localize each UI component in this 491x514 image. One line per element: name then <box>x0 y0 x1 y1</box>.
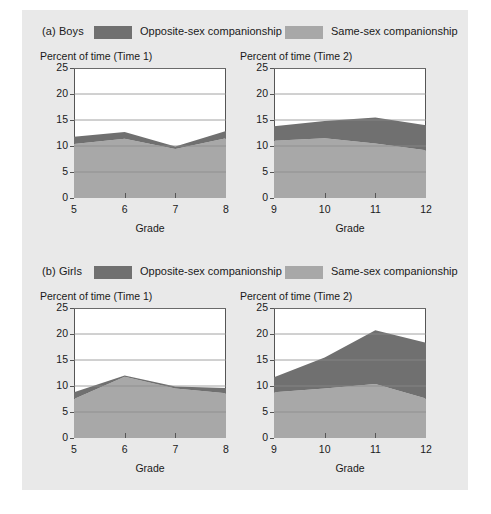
chart-svg <box>274 68 426 198</box>
y-tick-mark <box>70 308 74 309</box>
x-tick-label: 8 <box>223 204 229 215</box>
x-tick-label: 8 <box>223 444 229 455</box>
x-tick-label: 12 <box>420 204 432 215</box>
legend-girls: (b) Girls Opposite-sex companionship Sam… <box>22 264 468 282</box>
y-tick-mark <box>270 120 274 121</box>
y-tick-mark <box>70 146 74 147</box>
area-series-same-sex <box>74 138 226 198</box>
y-tick-label: 15 <box>40 114 68 125</box>
x-tick-label: 5 <box>71 444 77 455</box>
x-axis-label: Grade <box>274 462 426 474</box>
legend-swatch-opposite-sex <box>94 26 132 39</box>
y-tick-label: 5 <box>240 406 268 417</box>
y-tick-label: 20 <box>40 328 68 339</box>
x-tick-label: 5 <box>71 204 77 215</box>
y-tick-label: 10 <box>40 140 68 151</box>
x-tick-label: 6 <box>122 204 128 215</box>
plot-area: 05101520255678 <box>74 68 226 198</box>
y-tick-label: 20 <box>240 328 268 339</box>
chart-boys-time2: Percent of time (Time 2) 051015202591011… <box>240 50 445 245</box>
y-tick-label: 5 <box>240 166 268 177</box>
y-tick-label: 15 <box>40 354 68 365</box>
y-tick-mark <box>70 172 74 173</box>
y-tick-label: 5 <box>40 166 68 177</box>
x-tick-mark <box>375 193 376 198</box>
y-tick-mark <box>70 334 74 335</box>
y-tick-mark <box>270 412 274 413</box>
x-tick-label: 9 <box>271 444 277 455</box>
x-axis-label: Grade <box>74 222 226 234</box>
y-tick-label: 25 <box>40 302 68 313</box>
x-axis-label: Grade <box>274 222 426 234</box>
legend-label-opposite-sex: Opposite-sex companionship <box>140 25 282 37</box>
y-tick-label: 0 <box>240 432 268 443</box>
legend-boys: (a) Boys Opposite-sex companionship Same… <box>22 24 468 42</box>
y-tick-label: 25 <box>40 62 68 73</box>
chart-svg <box>74 68 226 198</box>
x-tick-label: 10 <box>319 204 331 215</box>
y-tick-label: 10 <box>240 380 268 391</box>
y-tick-mark <box>70 68 74 69</box>
y-tick-mark <box>70 360 74 361</box>
x-tick-label: 11 <box>370 444 381 455</box>
panel-label-girls: (b) Girls <box>42 265 82 277</box>
y-tick-label: 0 <box>40 192 68 203</box>
legend-swatch-same-sex <box>285 266 323 279</box>
figure-container: (a) Boys Opposite-sex companionship Same… <box>22 10 468 490</box>
y-tick-mark <box>270 198 274 199</box>
area-series-same-sex <box>274 384 426 438</box>
plot-area: 05101520259101112 <box>274 68 426 198</box>
y-tick-label: 5 <box>40 406 68 417</box>
plot-area: 05101520259101112 <box>274 308 426 438</box>
y-tick-label: 10 <box>40 380 68 391</box>
y-tick-label: 20 <box>240 88 268 99</box>
legend-label-same-sex: Same-sex companionship <box>331 265 458 277</box>
y-tick-mark <box>270 308 274 309</box>
legend-swatch-opposite-sex <box>94 266 132 279</box>
x-tick-mark <box>325 433 326 438</box>
x-tick-label: 10 <box>319 444 331 455</box>
chart-boys-time1: Percent of time (Time 1) 05101520255678 … <box>40 50 245 245</box>
x-tick-mark <box>175 193 176 198</box>
x-tick-label: 6 <box>122 444 128 455</box>
x-tick-label: 9 <box>271 204 277 215</box>
y-tick-mark <box>270 94 274 95</box>
x-tick-label: 11 <box>370 204 381 215</box>
x-tick-mark <box>175 433 176 438</box>
chart-girls-time1: Percent of time (Time 1) 05101520255678 … <box>40 290 245 485</box>
x-tick-label: 7 <box>172 444 178 455</box>
panel-label-boys: (a) Boys <box>42 25 84 37</box>
y-tick-mark <box>270 438 274 439</box>
y-tick-mark <box>270 146 274 147</box>
legend-label-same-sex: Same-sex companionship <box>331 25 458 37</box>
area-series-same-sex <box>274 138 426 198</box>
y-tick-mark <box>270 172 274 173</box>
y-tick-label: 15 <box>240 354 268 365</box>
y-tick-mark <box>70 198 74 199</box>
x-tick-mark <box>125 433 126 438</box>
chart-svg <box>274 308 426 438</box>
y-tick-label: 25 <box>240 302 268 313</box>
panel-girls: (b) Girls Opposite-sex companionship Sam… <box>22 250 468 490</box>
y-tick-label: 0 <box>40 432 68 443</box>
chart-svg <box>74 308 226 438</box>
y-tick-label: 10 <box>240 140 268 151</box>
y-tick-mark <box>270 68 274 69</box>
panel-boys: (a) Boys Opposite-sex companionship Same… <box>22 10 468 250</box>
y-tick-label: 25 <box>240 62 268 73</box>
x-tick-label: 7 <box>172 204 178 215</box>
legend-label-opposite-sex: Opposite-sex companionship <box>140 265 282 277</box>
y-tick-mark <box>270 334 274 335</box>
y-tick-label: 15 <box>240 114 268 125</box>
plot-area: 05101520255678 <box>74 308 226 438</box>
y-tick-mark <box>70 412 74 413</box>
legend-swatch-same-sex <box>285 26 323 39</box>
y-tick-mark <box>270 386 274 387</box>
x-tick-mark <box>125 193 126 198</box>
x-tick-label: 12 <box>420 444 432 455</box>
y-tick-mark <box>70 386 74 387</box>
y-tick-mark <box>270 360 274 361</box>
y-tick-mark <box>70 94 74 95</box>
y-tick-label: 0 <box>240 192 268 203</box>
x-tick-mark <box>375 433 376 438</box>
